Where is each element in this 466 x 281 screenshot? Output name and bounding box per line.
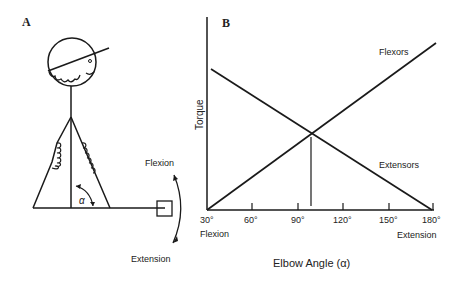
- extensors-label: Extensors: [379, 160, 420, 170]
- x-tick-label: 180°: [422, 215, 441, 225]
- extensors-line: [211, 69, 432, 210]
- extensor-spring-icon: [82, 143, 95, 173]
- x-tick-label: 60°: [244, 215, 258, 225]
- panel-b-label: B: [222, 16, 230, 30]
- angle-symbol: α: [79, 195, 85, 206]
- x-tick-label: 150°: [379, 215, 398, 225]
- eye: [89, 60, 92, 63]
- hair: [49, 72, 80, 82]
- x-tick-label: 90°: [291, 215, 305, 225]
- flexion-label: Flexion: [145, 158, 174, 168]
- torque-chart: Flexors Extensors Torque 30° 60° 90° 120…: [194, 17, 441, 269]
- panel-a-label: A: [22, 15, 31, 29]
- y-axis-label: Torque: [194, 99, 205, 130]
- flexors-line: [207, 43, 436, 210]
- left-muscle-line: [33, 117, 71, 208]
- figure-canvas: A α Flexion Extension B: [0, 0, 466, 281]
- x-axis-label: Elbow Angle (α): [273, 257, 350, 269]
- x-tick-label: 30°: [200, 215, 214, 225]
- motion-arc: [173, 175, 181, 243]
- extension-label: Extension: [131, 254, 171, 264]
- x-tick-label: 120°: [333, 215, 352, 225]
- cap-brim: [48, 48, 109, 71]
- x-sublabel-flexion: Flexion: [200, 229, 229, 239]
- flexors-label: Flexors: [379, 47, 409, 57]
- x-sublabel-extension: Extension: [397, 230, 437, 240]
- stick-figure: α: [33, 38, 172, 216]
